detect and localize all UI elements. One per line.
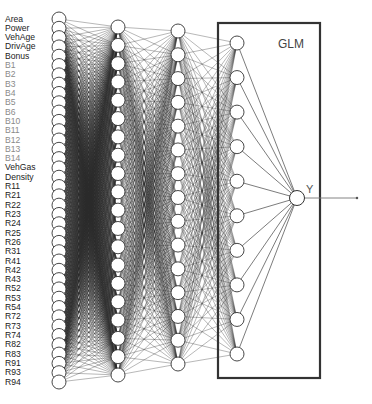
- hidden-1-node: [111, 295, 125, 309]
- hidden-2-node: [171, 24, 185, 38]
- input-label: B2: [5, 70, 49, 79]
- input-label: R21: [5, 191, 49, 200]
- input-label: R94: [5, 378, 49, 387]
- hidden-1-node: [111, 167, 125, 181]
- hidden-2-node: [171, 286, 185, 300]
- hidden-3-node: [230, 174, 244, 188]
- input-label: R31: [5, 247, 49, 256]
- hidden-2-node: [171, 48, 185, 62]
- glm-title: GLM: [278, 37, 304, 51]
- hidden-1-node: [111, 350, 125, 364]
- hidden-1-node: [111, 148, 125, 162]
- neural-network-diagram: [0, 0, 372, 404]
- hidden-1-node: [111, 221, 125, 235]
- hidden-1-node: [111, 185, 125, 199]
- hidden-2-node: [171, 309, 185, 323]
- hidden-1-node: [111, 112, 125, 126]
- hidden-3-node: [230, 140, 244, 154]
- hidden-1-node: [111, 20, 125, 34]
- hidden-3-node: [230, 347, 244, 361]
- hidden-3-node: [230, 312, 244, 326]
- hidden-2-node: [171, 262, 185, 276]
- hidden-3-node: [230, 36, 244, 50]
- hidden-2-node: [171, 357, 185, 371]
- hidden-1-node: [111, 313, 125, 327]
- input-label: R24: [5, 219, 49, 228]
- hidden-1-node: [111, 203, 125, 217]
- output-label-y: Y: [306, 183, 313, 195]
- input-label: R72: [5, 312, 49, 321]
- hidden-1-node: [111, 130, 125, 144]
- hidden-2-node: [171, 95, 185, 109]
- hidden-3-node: [230, 243, 244, 257]
- hidden-2-node: [171, 191, 185, 205]
- hidden-1-node: [111, 276, 125, 290]
- hidden-2-node: [171, 214, 185, 228]
- hidden-3-node: [230, 278, 244, 292]
- input-label: B5: [5, 98, 49, 107]
- hidden-3-node: [230, 105, 244, 119]
- hidden-1-node: [111, 93, 125, 107]
- hidden-1-node: [111, 57, 125, 71]
- hidden-1-node: [111, 331, 125, 345]
- hidden-2-node: [171, 333, 185, 347]
- input-label: R82: [5, 340, 49, 349]
- hidden-2-node: [171, 143, 185, 157]
- hidden-2-node: [171, 238, 185, 252]
- hidden-3-node: [230, 71, 244, 85]
- input-label: B11: [5, 126, 49, 135]
- hidden-1-node: [111, 38, 125, 52]
- glm-output-edges: [237, 43, 297, 354]
- output-node: [290, 191, 305, 206]
- hidden-1-node: [111, 368, 125, 382]
- hidden-1-node: [111, 240, 125, 254]
- input-node: [52, 375, 66, 389]
- hidden-1-node: [111, 75, 125, 89]
- hidden-2-node: [171, 119, 185, 133]
- connection-edges: [59, 19, 237, 382]
- hidden-1-node: [111, 258, 125, 272]
- hidden-3-node: [230, 209, 244, 223]
- input-label: R93: [5, 368, 49, 377]
- hidden-2-node: [171, 72, 185, 86]
- hidden-2-node: [171, 167, 185, 181]
